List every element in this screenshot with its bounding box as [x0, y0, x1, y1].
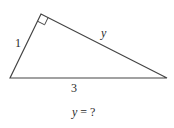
triangle-shape [10, 14, 167, 78]
base-label: 3 [71, 82, 77, 94]
left-leg-label: 1 [15, 37, 21, 49]
upper-leg-label: y [101, 27, 106, 39]
right-triangle-diagram: 1 y 3 y = ? [0, 0, 174, 128]
question-rest: = ? [77, 105, 95, 119]
question-text: y = ? [72, 106, 95, 118]
